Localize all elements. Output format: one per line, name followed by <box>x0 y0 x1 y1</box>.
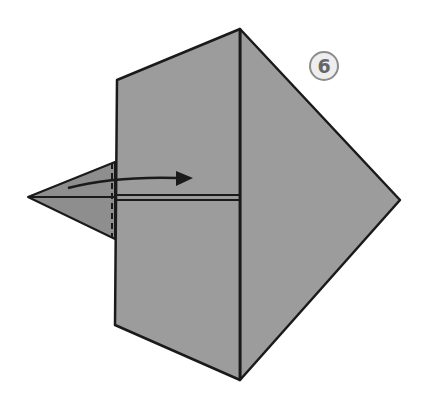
step-number: 6 <box>317 55 330 77</box>
origami-diagram <box>0 0 429 402</box>
right-face <box>240 29 400 380</box>
left-flap <box>28 162 115 239</box>
step-number-badge: 6 <box>309 51 339 81</box>
front-square <box>115 29 240 380</box>
